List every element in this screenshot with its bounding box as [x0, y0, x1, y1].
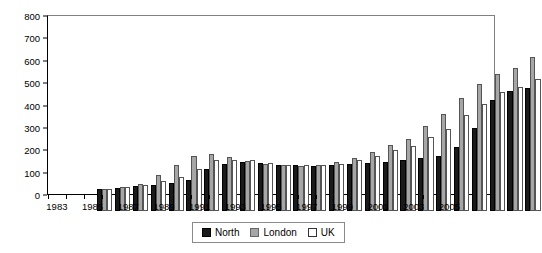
x-axis-tick-mark — [369, 195, 370, 199]
bar-group — [471, 32, 489, 211]
bar-group — [114, 32, 132, 211]
bar-group — [488, 32, 506, 211]
bar-group — [274, 32, 292, 211]
x-axis-tick-mark — [262, 195, 263, 199]
y-axis: 0100200300400500600700800 — [0, 0, 47, 196]
y-axis-tick-label: 0 — [35, 191, 40, 200]
bar-group — [328, 32, 346, 211]
x-axis-tick-label: 2003 — [403, 201, 424, 212]
x-axis-tick-mark — [387, 195, 388, 199]
bar-group — [239, 32, 257, 211]
x-axis-tick-mark — [102, 195, 103, 199]
x-axis-tick-mark — [66, 195, 67, 199]
bar-group — [381, 32, 399, 211]
bar-group — [167, 32, 185, 211]
bar-series-container — [96, 32, 542, 211]
x-axis-tick-label: 1987 — [118, 201, 139, 212]
legend-item-north[interactable]: North — [202, 228, 239, 238]
x-axis-tick-mark — [333, 195, 334, 199]
chart-legend: NorthLondonUK — [192, 222, 345, 243]
bar-uk — [518, 87, 523, 211]
y-axis-tick-label: 100 — [24, 168, 40, 177]
x-axis-tick-label: 1999 — [332, 201, 353, 212]
bar-group — [257, 32, 275, 211]
legend-item-uk[interactable]: UK — [308, 228, 335, 238]
x-axis-tick-mark — [137, 195, 138, 199]
y-axis-tick-label: 700 — [24, 34, 40, 43]
x-axis-tick-mark — [476, 195, 477, 199]
bar-group — [132, 32, 150, 211]
x-axis-tick-mark — [405, 195, 406, 199]
x-axis-tick-mark — [173, 195, 174, 199]
y-axis-tick-label: 600 — [24, 56, 40, 65]
bar-group — [96, 32, 114, 211]
bar-group — [435, 32, 453, 211]
x-axis-tick-label: 1995 — [260, 201, 281, 212]
y-axis-tick-label: 500 — [24, 79, 40, 88]
x-axis-tick-mark — [155, 195, 156, 199]
x-axis-tick-mark — [458, 195, 459, 199]
bar-group — [292, 32, 310, 211]
x-axis-tick-label: 1991 — [189, 201, 210, 212]
bar-group — [399, 32, 417, 211]
y-axis-tick-label: 400 — [24, 101, 40, 110]
bar-group — [203, 32, 221, 211]
x-axis-tick-mark — [226, 195, 227, 199]
legend-swatch-uk-icon — [308, 228, 317, 237]
x-axis-tick-mark — [244, 195, 245, 199]
y-axis-tick-label: 800 — [24, 12, 40, 21]
bar-group — [185, 32, 203, 211]
x-axis-tick-mark — [423, 195, 424, 199]
bar-group — [506, 32, 524, 211]
legend-item-london[interactable]: London — [250, 228, 296, 238]
x-axis-tick-mark — [298, 195, 299, 199]
x-axis-tick-mark — [316, 195, 317, 199]
x-axis: 1983198519871989199119931995199719992001… — [47, 195, 495, 219]
bar-group — [310, 32, 328, 211]
x-axis-tick-mark — [48, 195, 49, 199]
legend-label: London — [263, 228, 296, 238]
plot-area — [47, 15, 495, 195]
bar-group — [417, 32, 435, 211]
x-axis-tick-label: 1993 — [225, 201, 246, 212]
legend-swatch-london-icon — [250, 228, 259, 237]
x-axis-tick-mark — [280, 195, 281, 199]
bar-group — [364, 32, 382, 211]
x-axis-tick-label: 2001 — [367, 201, 388, 212]
bar-group — [150, 32, 168, 211]
x-axis-tick-mark — [191, 195, 192, 199]
legend-label: North — [215, 228, 239, 238]
y-axis-tick-label: 300 — [24, 123, 40, 132]
legend-label: UK — [321, 228, 335, 238]
x-axis-tick-label: 2005 — [439, 201, 460, 212]
x-axis-tick-mark — [84, 195, 85, 199]
x-axis-tick-mark — [440, 195, 441, 199]
legend-swatch-north-icon — [202, 228, 211, 237]
bar-uk — [535, 79, 540, 211]
x-axis-tick-label: 1989 — [153, 201, 174, 212]
x-axis-tick-mark — [494, 195, 495, 199]
x-axis-tick-mark — [351, 195, 352, 199]
y-axis-tick-label: 200 — [24, 146, 40, 155]
bar-uk — [500, 92, 505, 211]
x-axis-tick-label: 1985 — [82, 201, 103, 212]
bar-group — [221, 32, 239, 211]
bar-group — [524, 32, 542, 211]
x-axis-tick-mark — [119, 195, 120, 199]
x-axis-tick-mark — [209, 195, 210, 199]
x-axis-tick-label: 1997 — [296, 201, 317, 212]
bar-group — [453, 32, 471, 211]
x-axis-tick-label: 1983 — [46, 201, 67, 212]
bar-group — [346, 32, 364, 211]
